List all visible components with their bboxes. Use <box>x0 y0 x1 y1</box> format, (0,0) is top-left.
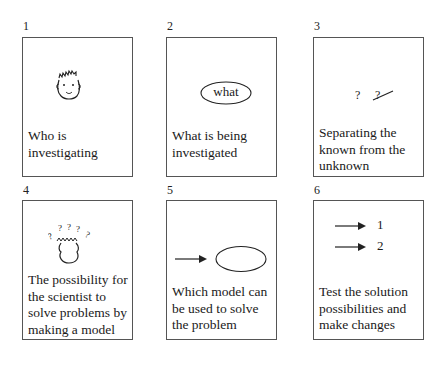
panel-6-caption: Test the solution possibilities and make… <box>319 284 421 334</box>
what-ellipse-icon: what <box>200 81 252 105</box>
panel-4-caption: The possibility for the scientist to sol… <box>28 272 130 338</box>
panel-2-caption: What is being investigated <box>172 128 274 161</box>
two-arrows-icon: 1 2 <box>334 217 394 261</box>
smiling-face-icon <box>53 68 85 102</box>
panel-4-card: ? ? ? ? ? The possibility for the scient… <box>22 200 133 340</box>
panel-3-number: 3 <box>314 19 320 34</box>
panel-1-caption: Who is investigating <box>28 128 130 161</box>
panel-3-card: ? ? Separating the known from the unknow… <box>313 37 424 177</box>
panel-6-number: 6 <box>314 183 320 198</box>
panel-4-number: 4 <box>23 183 29 198</box>
ellipse-label: what <box>200 84 252 100</box>
arrow-to-ellipse-icon <box>174 245 274 275</box>
panel-5-number: 5 <box>167 183 173 198</box>
svg-text:?: ? <box>48 231 54 242</box>
arrow-label-2: 2 <box>377 238 384 254</box>
panel-1-number: 1 <box>23 19 29 34</box>
panel-3-caption: Separating the known from the unknown <box>319 125 421 175</box>
svg-text:?: ? <box>84 229 92 240</box>
panel-2-number: 2 <box>167 19 173 34</box>
panel-2-card: what What is being investigated <box>166 37 277 177</box>
unknown-mark: ? <box>355 88 360 103</box>
svg-text:?: ? <box>76 224 80 234</box>
svg-text:?: ? <box>67 222 71 232</box>
panel-5-card: Which model can be used to solve the pro… <box>166 200 277 340</box>
panel-1-card: Who is investigating <box>22 37 133 177</box>
panel-6-card: 1 2 Test the solution possibilities and … <box>313 200 424 340</box>
thinking-head-icon: ? ? ? ? ? <box>48 221 94 265</box>
svg-text:?: ? <box>58 223 62 233</box>
panel-5-caption: Which model can be used to solve the pro… <box>172 284 274 334</box>
arrow-label-1: 1 <box>377 217 384 233</box>
